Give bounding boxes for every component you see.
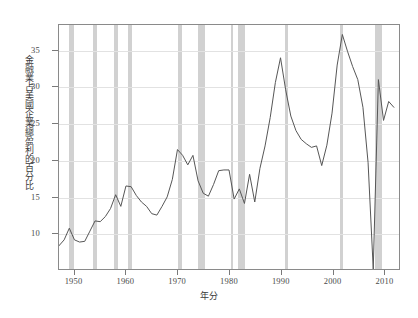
x-tick-mark bbox=[74, 270, 75, 275]
x-tick-mark bbox=[125, 270, 126, 275]
x-tick-label: 2010 bbox=[376, 276, 394, 286]
x-tick-label: 1970 bbox=[168, 276, 186, 286]
x-tick-mark bbox=[333, 270, 334, 275]
x-tick-label: 1980 bbox=[220, 276, 238, 286]
x-tick-mark bbox=[229, 270, 230, 275]
x-tick-mark bbox=[177, 270, 178, 275]
x-tick-mark bbox=[281, 270, 282, 275]
x-tick-label: 1990 bbox=[272, 276, 290, 286]
chart-figure: 金融業占美國企業總盈利的百分比 101520253035 19501960197… bbox=[0, 0, 418, 318]
x-axis-ticks: 1950196019701980199020002010 bbox=[0, 0, 418, 318]
x-tick-label: 1950 bbox=[65, 276, 83, 286]
x-axis-title: 年分 bbox=[0, 289, 418, 302]
x-tick-label: 1960 bbox=[116, 276, 134, 286]
x-tick-label: 2000 bbox=[324, 276, 342, 286]
x-tick-mark bbox=[384, 270, 385, 275]
